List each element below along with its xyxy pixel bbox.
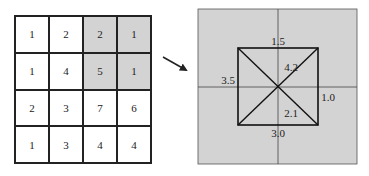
diagram-overlay: 1.5 3.5 1.0 3.0 4.2 2.1 [0,0,369,176]
label-upper-diagonal: 4.2 [284,61,298,73]
label-right: 1.0 [321,91,335,103]
label-left: 3.5 [221,74,235,86]
label-lower-diagonal: 2.1 [284,107,298,119]
label-top: 1.5 [271,35,285,47]
arrow-icon [163,57,186,70]
label-bottom: 3.0 [271,127,285,139]
